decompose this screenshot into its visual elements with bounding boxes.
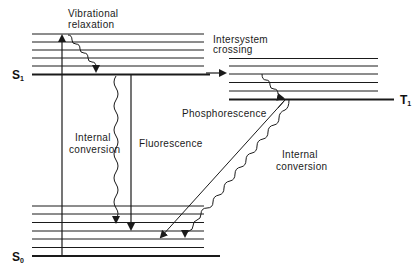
phosphorescence-arrow <box>161 100 285 237</box>
state-label-s1: S1 <box>12 68 24 82</box>
label-internal-conversion-right-line1: Internal <box>282 149 318 160</box>
t1-vibrational-levels <box>229 59 378 92</box>
label-vibrational-relaxation-line1: Vibrational <box>68 8 118 19</box>
label-fluorescence: Fluorescence <box>139 138 203 149</box>
label-intersystem-crossing-line2: crossing <box>213 44 253 55</box>
label-vibrational-relaxation-line2: relaxation <box>68 19 114 30</box>
label-internal-conversion-left-line1: Internal <box>75 132 111 143</box>
state-label-s0: S0 <box>12 250 24 264</box>
internal-conversion-right-arrow <box>185 100 289 236</box>
label-phosphorescence: Phosphorescence <box>182 108 267 119</box>
jablonski-diagram: Vibrational relaxation Intersystem cross… <box>0 0 418 271</box>
state-label-t1: T1 <box>400 93 411 107</box>
label-internal-conversion-right-line2: conversion <box>276 161 327 172</box>
s1-vibrational-levels <box>32 34 204 66</box>
label-internal-conversion-left-line2: conversion <box>69 144 120 155</box>
phosphorescence-arrow-head-up <box>278 101 284 108</box>
t1-vibrational-relaxation-arrow <box>262 74 283 98</box>
